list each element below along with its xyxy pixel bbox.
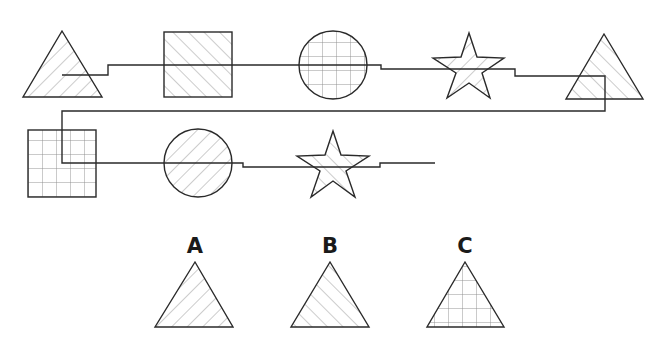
- sequence-item-1-triangle: [23, 31, 102, 97]
- option-a-label: A: [187, 234, 204, 258]
- option-c-label: C: [457, 234, 472, 258]
- option-c[interactable]: C: [427, 234, 504, 327]
- option-b-label: B: [322, 234, 338, 258]
- sequence-item-8-star: [297, 131, 369, 197]
- option-b[interactable]: B: [291, 234, 369, 327]
- sequence-item-4-star: [433, 33, 504, 98]
- option-a[interactable]: A: [155, 234, 233, 327]
- puzzle-diagram: A B C: [0, 0, 667, 362]
